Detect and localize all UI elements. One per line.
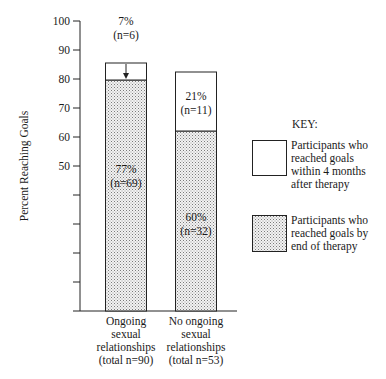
svg-text:reached goals by: reached goals by [291,227,369,240]
legend: KEY: Participants who reached goals with… [253,118,369,253]
svg-text:(total n=53): (total n=53) [169,354,224,367]
bar-segment-end-of-therapy [106,80,147,311]
x-category-label-1: Ongoing sexual relationships (total n=90… [97,315,156,367]
svg-text:Participants who: Participants who [291,139,368,152]
bar-ongoing: 7% (n=6) 77% (n=69) [106,15,147,311]
chart: Percent Reaching Goals 100 90 80 70 60 5… [0,0,386,379]
svg-text:within 4 months: within 4 months [291,165,366,177]
y-tick-labels: 100 90 80 70 60 50 [53,15,71,172]
svg-text:60: 60 [59,131,71,143]
legend-swatch-white [253,141,287,176]
x-category-label-2: No ongoing sexual relationships (total n… [167,315,226,367]
svg-text:end of therapy: end of therapy [291,240,358,253]
svg-text:sexual: sexual [181,328,210,340]
svg-text:No ongoing: No ongoing [169,315,224,328]
bar-bottom-pct: 60% [185,211,207,223]
bar-top-pct: 7% [118,15,134,27]
svg-text:sexual: sexual [111,328,140,340]
svg-text:relationships: relationships [97,341,156,354]
svg-text:reached goals: reached goals [291,152,354,165]
bar-bottom-pct: 77% [115,163,137,175]
bar-no-ongoing: 21% (n=11) 60% (n=32) [176,72,217,311]
legend-swatch-dotted [253,216,287,252]
bar-top-n: (n=6) [113,29,139,42]
bar-bottom-n: (n=69) [110,177,142,190]
svg-text:50: 50 [59,160,71,172]
svg-text:after therapy: after therapy [291,178,350,191]
bar-top-pct: 21% [185,90,207,102]
bar-bottom-n: (n=32) [180,225,212,238]
y-axis-label: Percent Reaching Goals [18,110,31,221]
svg-text:70: 70 [59,102,71,114]
legend-title: KEY: [292,118,318,130]
svg-text:90: 90 [59,44,71,56]
svg-text:(total n=90): (total n=90) [99,354,154,367]
svg-text:Participants who: Participants who [291,214,368,227]
svg-text:relationships: relationships [167,341,226,354]
bar-top-n: (n=11) [181,104,212,117]
y-ticks [73,21,80,282]
svg-text:80: 80 [59,73,71,85]
svg-text:100: 100 [53,15,71,27]
svg-text:Ongoing: Ongoing [106,315,147,328]
